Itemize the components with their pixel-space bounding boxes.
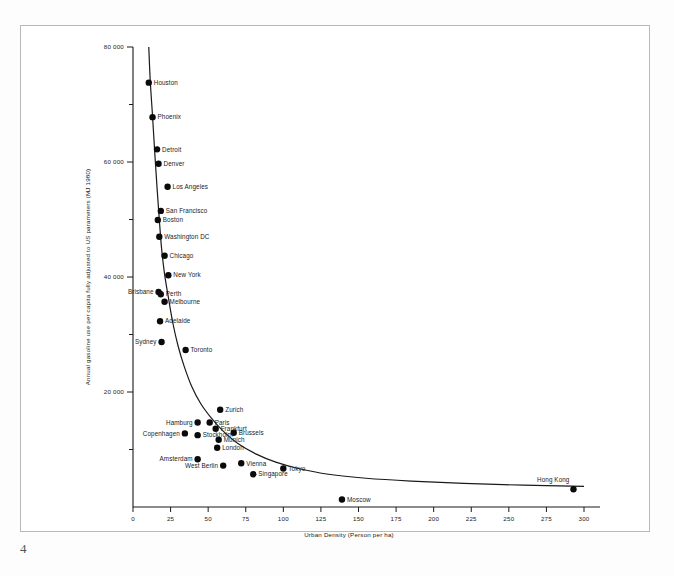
data-point-label: Adelaide [165, 317, 191, 324]
data-point-label: Tokyo [288, 465, 305, 473]
data-point-label: Denver [164, 160, 185, 167]
data-point [164, 184, 170, 190]
data-point-label: Washington DC [164, 233, 210, 241]
data-point-label: Detroit [162, 146, 181, 153]
data-point [570, 486, 576, 492]
data-point [165, 272, 171, 278]
data-point-label: Los Angeles [173, 183, 208, 191]
y-axis-title: Annual gasoline use per capita fully adj… [84, 169, 91, 386]
data-point-label: Zurich [225, 406, 243, 413]
data-point-label: London [222, 444, 244, 451]
data-point [156, 234, 162, 240]
data-point-label: Hamburg [166, 419, 193, 427]
data-point [238, 460, 244, 466]
y-tick-label: 20 000 [104, 388, 124, 395]
data-point [339, 496, 345, 502]
data-point [155, 161, 161, 167]
x-tick-label: 50 [205, 515, 213, 522]
data-point-labels-group: HoustonPhoenixDetroitDenverLos AngelesSa… [128, 79, 570, 503]
data-point-label: Vienna [246, 460, 266, 467]
page-number: 4 [20, 541, 27, 557]
data-point-label: Boston [163, 216, 184, 223]
data-point [217, 407, 223, 413]
x-tick-label: 275 [541, 515, 552, 522]
data-point [194, 419, 200, 425]
x-axis-title: Urban Density (Person per ha) [304, 531, 394, 538]
y-tick-label: 60 000 [104, 158, 124, 165]
data-point [220, 462, 226, 468]
data-point [194, 432, 200, 438]
scatter-plot-svg: 0255075100125150175200225250275300 20 00… [0, 0, 674, 576]
data-point-label: San Francisco [166, 207, 208, 214]
data-point-label: Singapore [258, 470, 288, 478]
x-tick-label: 200 [428, 515, 439, 522]
data-point [149, 114, 155, 120]
data-point-label: New York [173, 271, 201, 278]
data-point-label: Sydney [135, 338, 157, 346]
x-tick-label: 0 [131, 515, 135, 522]
data-point-label: Houston [154, 79, 179, 86]
data-point [146, 79, 152, 85]
y-axis-ticks: 20 00040 00060 00080 000 [104, 43, 133, 449]
data-point [250, 471, 256, 477]
data-point [161, 299, 167, 305]
x-axis-ticks: 0255075100125150175200225250275300 [131, 507, 590, 522]
data-point [182, 347, 188, 353]
data-point-label: Munich [224, 436, 245, 443]
y-tick-label: 80 000 [104, 43, 124, 50]
data-point [158, 291, 164, 297]
data-point [182, 430, 188, 436]
data-point-label: Copenhagen [143, 430, 180, 438]
x-tick-label: 300 [579, 515, 590, 522]
data-point [157, 318, 163, 324]
x-tick-label: 75 [242, 515, 250, 522]
data-point [206, 419, 212, 425]
data-point-label: Perth [166, 290, 182, 297]
x-tick-label: 100 [278, 515, 289, 522]
data-point [161, 253, 167, 259]
data-point-label: Brisbane [128, 288, 154, 295]
x-tick-label: 25 [167, 515, 175, 522]
data-point [154, 146, 160, 152]
data-point [158, 208, 164, 214]
data-point-label: Hong Kong [537, 476, 570, 484]
page: 0255075100125150175200225250275300 20 00… [0, 0, 674, 576]
x-tick-label: 125 [315, 515, 326, 522]
x-tick-label: 150 [353, 515, 364, 522]
data-point [155, 217, 161, 223]
data-point-label: Toronto [191, 346, 213, 353]
data-point-label: Melbourne [170, 298, 201, 305]
data-points-group [146, 79, 577, 502]
data-point-label: West Berlin [185, 462, 219, 469]
data-point-label: Phoenix [158, 113, 182, 120]
x-tick-label: 225 [466, 515, 477, 522]
data-point-label: Chicago [170, 252, 194, 260]
x-tick-label: 250 [503, 515, 514, 522]
data-point [158, 339, 164, 345]
data-point [214, 445, 220, 451]
y-tick-label: 40 000 [104, 273, 124, 280]
x-tick-label: 175 [391, 515, 402, 522]
gasoline-use-vs-urban-density-chart: 0255075100125150175200225250275300 20 00… [0, 0, 674, 576]
data-point-label: Moscow [347, 496, 371, 503]
